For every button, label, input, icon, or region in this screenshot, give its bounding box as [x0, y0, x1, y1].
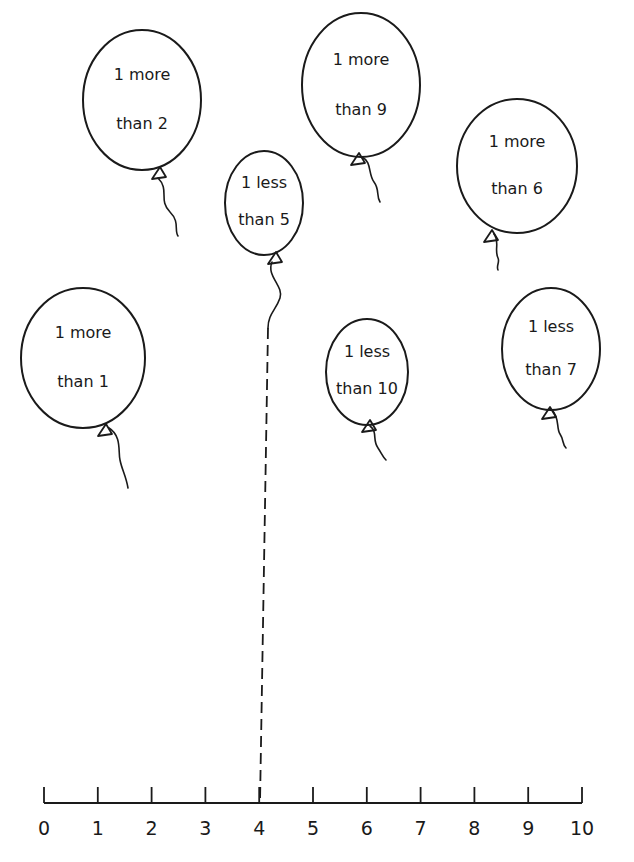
balloon-clue-line1: 1 more	[489, 132, 546, 151]
balloon-clue-line1: 1 less	[528, 317, 574, 336]
balloon-string	[268, 262, 281, 328]
balloon-outline	[21, 288, 145, 428]
balloon: 1 morethan 9	[302, 13, 420, 202]
balloon-clue-line2: than 1	[57, 372, 109, 391]
balloon-outline	[225, 151, 303, 255]
balloon: 1 morethan 2	[83, 30, 201, 236]
balloon-knot-icon	[351, 153, 365, 165]
number-line-label: 4	[253, 817, 265, 839]
balloon: 1 lessthan 5	[225, 151, 303, 328]
dashed-answer-line	[260, 328, 268, 803]
balloon-string	[109, 428, 128, 488]
number-line-label: 1	[92, 817, 104, 839]
balloon-outline	[326, 319, 408, 425]
balloon: 1 morethan 1	[21, 288, 145, 488]
number-line-label: 5	[307, 817, 319, 839]
balloon: 1 lessthan 7	[502, 288, 600, 448]
balloon-clue-line1: 1 more	[114, 65, 171, 84]
number-line-label: 10	[570, 817, 594, 839]
balloon: 1 morethan 6	[457, 99, 577, 270]
balloon-clue-line2: than 9	[335, 100, 387, 119]
balloon-clue-line1: 1 less	[344, 342, 390, 361]
number-line-label: 9	[522, 817, 534, 839]
balloon-number-line-worksheet: 1 morethan 21 lessthan 51 morethan 91 mo…	[0, 0, 634, 862]
balloon-clue-line2: than 10	[336, 379, 398, 398]
number-line-label: 8	[468, 817, 480, 839]
balloon-clue-line2: than 5	[238, 210, 290, 229]
balloon-string	[552, 410, 566, 448]
number-line-label: 0	[38, 817, 50, 839]
balloon-clue-line2: than 6	[491, 179, 543, 198]
balloon-outline	[302, 13, 420, 157]
number-line-label: 3	[199, 817, 211, 839]
balloon-clue-line2: than 7	[525, 360, 577, 379]
number-line-label: 6	[361, 817, 373, 839]
balloon-outline	[502, 288, 600, 410]
balloon-outline	[457, 99, 577, 233]
balloons-group: 1 morethan 21 lessthan 51 morethan 91 mo…	[21, 13, 600, 488]
balloon-clue-line1: 1 less	[241, 173, 287, 192]
balloon-outline	[83, 30, 201, 170]
balloon-clue-line2: than 2	[116, 114, 168, 133]
balloon: 1 lessthan 10	[326, 319, 408, 460]
worksheet-canvas: 1 morethan 21 lessthan 51 morethan 91 mo…	[0, 0, 634, 862]
dashed-connector-group	[260, 328, 268, 803]
balloon-clue-line1: 1 more	[55, 323, 112, 342]
number-line-label: 2	[146, 817, 158, 839]
number-line-label: 7	[415, 817, 427, 839]
number-line: 012345678910	[38, 787, 594, 839]
balloon-string	[158, 178, 178, 236]
balloon-clue-line1: 1 more	[333, 50, 390, 69]
